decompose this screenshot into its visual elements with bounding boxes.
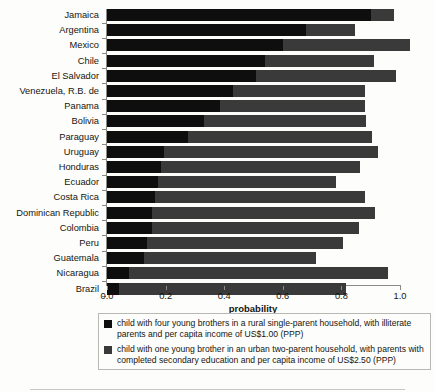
bar-row: [107, 9, 400, 21]
bar-segment: [107, 24, 306, 36]
bar-row: [107, 222, 400, 234]
bar-row: [107, 146, 400, 158]
bar-segment: [161, 161, 360, 173]
legend: child with four young brothers in a rura…: [98, 313, 431, 370]
bar-segment: [107, 207, 152, 219]
y-axis-tick: [102, 99, 106, 100]
category-label: Honduras: [0, 161, 99, 173]
bar-row: [107, 176, 400, 188]
bar-segment: [233, 85, 365, 97]
y-axis-tick: [102, 23, 106, 24]
category-label: Chile: [0, 55, 99, 67]
bar-segment: [107, 222, 152, 234]
bar-segment: [158, 176, 335, 188]
bar-segment: [306, 24, 354, 36]
y-axis-tick: [102, 205, 106, 206]
bar-segment: [119, 283, 346, 295]
bar-segment: [147, 237, 343, 249]
bar-segment: [107, 131, 188, 143]
y-axis-tick: [102, 83, 106, 84]
bar-row: [107, 70, 400, 82]
bar-segment: [107, 176, 158, 188]
category-label: Bolivia: [0, 115, 99, 127]
category-label: Uruguay: [0, 146, 99, 158]
legend-swatch-series-2: [104, 346, 112, 354]
y-axis-tick: [102, 175, 106, 176]
bar-row: [107, 207, 400, 219]
bar-segment: [107, 267, 129, 279]
y-axis-tick: [102, 190, 106, 191]
category-label: Colombia: [0, 222, 99, 234]
bar-segment: [107, 39, 283, 51]
bar-segment: [107, 237, 147, 249]
bar-segment: [152, 207, 375, 219]
bar-segment: [265, 55, 373, 67]
y-axis-tick: [102, 220, 106, 221]
bar-row: [107, 267, 400, 279]
y-axis-tick: [102, 251, 106, 252]
bar-segment: [107, 146, 164, 158]
bar-segment: [107, 55, 265, 67]
y-axis-tick: [102, 144, 106, 145]
category-label: Costa Rica: [0, 191, 99, 203]
x-axis-tick-label: 1.0: [394, 291, 407, 301]
category-label: Panama: [0, 100, 99, 112]
x-axis-tick: [107, 286, 108, 290]
y-axis-tick: [102, 159, 106, 160]
y-axis-tick: [102, 53, 106, 54]
bar-segment: [283, 39, 410, 51]
legend-label-series-1: child with four young brothers in a rura…: [117, 318, 425, 339]
y-axis-tick: [102, 266, 106, 267]
bar-segment: [155, 191, 364, 203]
bar-row: [107, 283, 400, 295]
x-axis-tick-label: 0.4: [218, 291, 231, 301]
y-axis-tick: [102, 68, 106, 69]
bar-row: [107, 191, 400, 203]
plot-area: [107, 9, 400, 284]
category-label: Mexico: [0, 39, 99, 51]
category-label: Venezuela, R.B. de: [0, 85, 99, 97]
bar-segment: [107, 70, 256, 82]
category-label: Ecuador: [0, 176, 99, 188]
y-axis-tick: [102, 281, 106, 282]
bar-segment: [107, 100, 220, 112]
legend-entry: child with four young brothers in a rura…: [104, 318, 425, 339]
category-label: Brazil: [0, 283, 99, 295]
x-axis-tick-label: 0.0: [101, 291, 114, 301]
bar-row: [107, 55, 400, 67]
bar-row: [107, 115, 400, 127]
x-axis-tick: [341, 286, 342, 290]
bar-segment: [220, 100, 365, 112]
x-axis-tick: [166, 286, 167, 290]
bar-segment: [107, 252, 144, 264]
bar-row: [107, 24, 400, 36]
category-label: Nicaragua: [0, 267, 99, 279]
bar-segment: [107, 191, 155, 203]
legend-entry: child with one young brother in an urban…: [104, 344, 425, 365]
page-rule: [30, 389, 405, 390]
bar-row: [107, 85, 400, 97]
bar-segment: [107, 9, 371, 21]
category-label: Jamaica: [0, 9, 99, 21]
bar-row: [107, 100, 400, 112]
bar-segment: [129, 267, 388, 279]
x-axis-tick: [224, 286, 225, 290]
y-axis-tick: [102, 38, 106, 39]
x-axis-tick: [283, 286, 284, 290]
bar-row: [107, 39, 400, 51]
bar-segment: [152, 222, 359, 234]
bar-segment: [144, 252, 317, 264]
category-label: Dominican Republic: [0, 207, 99, 219]
category-label: Peru: [0, 237, 99, 249]
category-axis-labels: JamaicaArgentinaMexicoChileEl SalvadorVe…: [0, 9, 103, 284]
bar-segment: [256, 70, 395, 82]
bar-row: [107, 237, 400, 249]
legend-swatch-series-1: [104, 320, 112, 328]
bar-segment: [204, 115, 367, 127]
x-axis-tick-label: 0.2: [159, 291, 172, 301]
x-axis-tick: [400, 286, 401, 290]
x-axis-tick-label: 0.6: [276, 291, 289, 301]
category-label: Guatemala: [0, 252, 99, 264]
y-axis-tick: [102, 129, 106, 130]
legend-label-series-2: child with one young brother in an urban…: [117, 344, 425, 365]
